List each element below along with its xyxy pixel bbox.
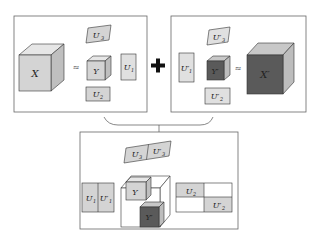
core-y-block-label: Y [132,188,138,197]
svg-text:U′: U′ [213,33,222,42]
bottom-panel: U 3 U′ 3 U 1 U′ 1 Y [80,132,238,229]
svg-text:3: 3 [222,37,225,43]
svg-text:U′: U′ [211,92,220,101]
svg-text:2: 2 [192,191,196,197]
core-block-diagonal: Y Y′ [121,176,170,227]
factor-u3-prime: U′ 3 [207,27,230,45]
approx-symbol: ≈ [73,63,80,72]
factor-u1: U 1 [121,54,136,80]
label-x: X [30,68,39,79]
factor-u1-combined: U 1 U′ 1 [82,183,114,212]
svg-text:U: U [132,150,139,159]
svg-text:2: 2 [99,94,103,100]
right-panel: U′ 1 U′ 3 Y′ ≈ U′ 2 X′ [171,16,306,112]
approx-symbol-right: ≈ [235,64,242,73]
tensor-x-cube: X [19,44,64,91]
core-y-prime-cube: Y′ [207,56,230,80]
label-y-prime: Y′ [211,67,218,76]
svg-text:U: U [86,194,93,203]
svg-text:3: 3 [139,154,142,160]
svg-text:1: 1 [109,198,112,204]
core-y-prime-block-label: Y′ [145,213,152,222]
factor-u1-prime: U′ 1 [179,53,194,82]
svg-text:U′: U′ [153,147,162,156]
factor-u2: U 2 [86,87,110,101]
left-panel: X ≈ U 3 Y U 1 U 2 [14,16,147,112]
svg-text:U′: U′ [213,201,222,210]
plus-operator [151,59,165,73]
tensor-x-prime-cube: X′ [247,43,294,94]
svg-text:U: U [93,31,100,40]
svg-text:U: U [124,63,131,72]
svg-text:U: U [186,187,193,196]
svg-text:2: 2 [221,205,225,211]
label-x-prime: X′ [259,69,270,80]
svg-text:1: 1 [131,67,134,73]
merge-brace [104,117,213,132]
svg-text:1: 1 [93,198,96,204]
factor-u2-prime: U′ 2 [205,88,230,104]
svg-text:U′: U′ [100,194,109,203]
svg-text:3: 3 [162,151,165,157]
svg-text:U: U [93,90,100,99]
label-y: Y [93,67,99,76]
core-y-cube: Y [87,56,111,80]
tensor-decomposition-diagram: X ≈ U 3 Y U 1 U 2 [0,0,317,244]
svg-text:3: 3 [101,35,104,41]
svg-text:1: 1 [189,68,192,74]
figure-caption [0,238,317,244]
factor-u3: U 3 [86,25,111,43]
svg-text:2: 2 [219,96,223,102]
